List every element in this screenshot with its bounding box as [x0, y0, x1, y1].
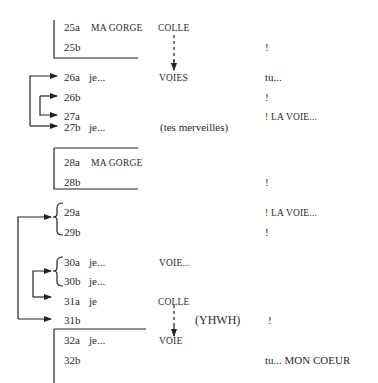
row-text: tu...	[265, 71, 282, 83]
row-text: ! LA VOIE...	[265, 207, 317, 219]
row-text: !	[265, 226, 269, 238]
row-id: 29a	[64, 206, 80, 218]
row-text: je...	[89, 256, 105, 268]
row-text: (tes merveilles)	[160, 121, 228, 133]
row-text: !	[268, 314, 272, 326]
row-text: MA GORGE	[91, 157, 142, 169]
row-text: COLLE	[158, 296, 190, 308]
row-id: 32a	[64, 334, 80, 346]
row-id: 32b	[64, 354, 81, 366]
row-text: COLLE	[158, 22, 190, 34]
row-text: MA GORGE	[91, 22, 142, 34]
row-text: (YHWH)	[195, 314, 240, 326]
row-id: 28a	[64, 156, 80, 168]
row-text: !	[265, 41, 269, 53]
row-id: 26a	[64, 71, 80, 83]
row-text: je...	[89, 334, 105, 346]
row-text: VOIE...	[159, 257, 190, 269]
row-text: je...	[89, 275, 105, 287]
row-text: VOIE	[159, 335, 183, 347]
row-id: 26b	[64, 91, 81, 103]
row-id: 25a	[64, 21, 80, 33]
row-id: 29b	[64, 226, 81, 238]
row-id: 25b	[64, 41, 81, 53]
row-text: je...	[89, 71, 105, 83]
row-text: !	[265, 176, 269, 188]
row-text: ! LA VOIE...	[265, 111, 317, 123]
row-text: je...	[89, 121, 105, 133]
row-id: 27b	[64, 121, 81, 133]
row-id: 30a	[64, 256, 80, 268]
diagram-lines	[0, 0, 378, 383]
row-id: 31b	[64, 314, 81, 326]
row-text: !	[265, 91, 269, 103]
row-id: 28b	[64, 176, 81, 188]
row-id: 31a	[64, 295, 80, 307]
row-text: VOIES	[159, 72, 188, 84]
row-text: je	[89, 295, 97, 307]
row-text: tu... MON COEUR	[265, 354, 350, 366]
row-id: 30b	[64, 275, 81, 287]
